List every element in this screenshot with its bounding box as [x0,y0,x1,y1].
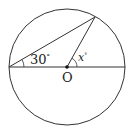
circle-diagram: 30° x° O [0,0,132,129]
label-center-O: O [62,70,73,85]
center-point [65,65,69,69]
label-x-degrees: x° [78,51,87,64]
angle-arc-left [22,60,24,68]
angle-arc-center [72,58,77,67]
label-30-degrees: 30° [30,52,50,67]
